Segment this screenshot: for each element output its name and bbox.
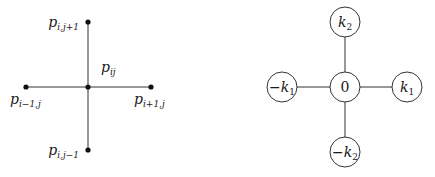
stencil-diagrams: pi,j+1 pij pi−1,j pi+1,j pi,j−1 0 [0,0,435,177]
label-center: pij [101,59,116,77]
node-center-dot [85,84,90,89]
node-right-sub: 1 [408,87,414,97]
label-center-base: p [101,59,110,75]
label-left-sub: i−1,j [19,99,41,109]
node-right-dot [148,84,153,89]
label-right-sub: i+1,j [143,99,165,109]
label-bottom-base: p [48,142,57,158]
label-left-base: p [10,91,19,107]
label-top: pi,j+1 [48,14,79,32]
node-center-label: 0 [341,79,350,95]
node-left-dot [23,84,28,89]
node-bottom-sub: 2 [352,152,358,162]
label-left: pi−1,j [10,91,41,109]
label-bottom-sub: i,j−1 [57,150,79,160]
node-bottom-base: k [344,144,352,160]
node-left-prefix: − [269,79,281,95]
label-bottom: pi,j−1 [48,142,79,160]
node-left-sub: 1 [289,87,295,97]
frequency-stencil-diagram: 0 k2 −k2 −k1 k1 [267,7,422,167]
node-bottom-prefix: − [332,144,344,160]
node-top-dot [85,19,90,24]
label-top-sub: i,j+1 [57,22,79,32]
node-left-base: k [281,79,289,95]
label-center-sub: ij [110,67,116,77]
node-right-base: k [400,79,408,95]
node-top-base: k [338,14,346,30]
label-top-base: p [48,14,57,30]
label-right: pi+1,j [134,91,165,109]
node-top-sub: 2 [346,22,352,32]
node-bottom-dot [85,147,90,152]
label-right-base: p [134,91,143,107]
grid-stencil-diagram: pi,j+1 pij pi−1,j pi+1,j pi,j−1 [10,14,165,160]
